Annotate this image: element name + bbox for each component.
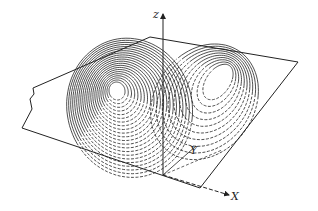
axes: z Y X <box>152 8 240 203</box>
left-wing-center-hole <box>113 86 121 96</box>
left-wing-solid-trajectories <box>67 38 193 143</box>
x-axis <box>163 175 229 195</box>
z-axis-label: z <box>152 8 159 21</box>
projection-plane <box>22 37 298 188</box>
x-axis-label: X <box>230 190 240 203</box>
diagram-canvas: z Y X <box>0 0 318 211</box>
lorenz-attractor-figure: z Y X <box>0 0 318 211</box>
